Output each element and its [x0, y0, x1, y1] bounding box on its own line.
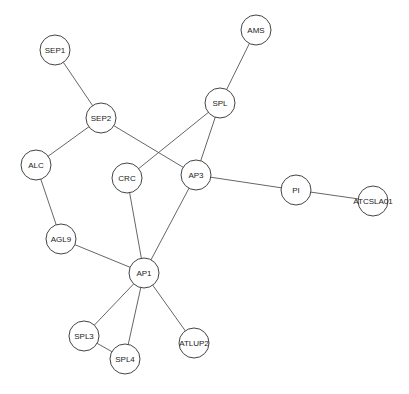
node-sep2: SEP2	[86, 103, 116, 133]
node-label: ATLUP2	[179, 339, 209, 348]
node-atcsla01: ATCSLA01	[353, 186, 393, 216]
node-label: AP3	[188, 171, 204, 180]
node-label: AGL9	[51, 235, 72, 244]
node-agl9: AGL9	[46, 224, 76, 254]
network-diagram: SEP1SEP2ALCCRCAP3AMSSPLPIATCSLA01AGL9AP1…	[0, 0, 409, 394]
node-label: ALC	[28, 161, 44, 170]
edge-ap3-ap1	[144, 175, 196, 273]
node-label: SEP1	[45, 46, 66, 55]
graph-canvas: SEP1SEP2ALCCRCAP3AMSSPLPIATCSLA01AGL9AP1…	[0, 0, 409, 394]
node-ap1: AP1	[129, 258, 159, 288]
node-ap3: AP3	[181, 160, 211, 190]
node-label: PI	[292, 186, 300, 195]
node-label: CRC	[118, 174, 136, 183]
node-pi: PI	[281, 175, 311, 205]
node-ams: AMS	[241, 15, 271, 45]
node-label: SEP2	[91, 114, 112, 123]
node-atlup2: ATLUP2	[179, 328, 209, 358]
nodes-layer: SEP1SEP2ALCCRCAP3AMSSPLPIATCSLA01AGL9AP1…	[21, 15, 393, 374]
node-alc: ALC	[21, 150, 51, 180]
node-label: AMS	[247, 26, 264, 35]
node-label: SPL3	[74, 332, 94, 341]
node-sep1: SEP1	[40, 35, 70, 65]
node-label: SPL4	[115, 355, 135, 364]
node-spl3: SPL3	[69, 321, 99, 351]
node-label: AP1	[136, 269, 152, 278]
node-spl: SPL	[205, 88, 235, 118]
node-spl4: SPL4	[110, 344, 140, 374]
node-label: SPL	[212, 99, 228, 108]
node-label: ATCSLA01	[353, 197, 393, 206]
edges-layer	[36, 30, 373, 359]
node-crc: CRC	[112, 163, 142, 193]
edge-sep2-ap3	[101, 118, 196, 175]
